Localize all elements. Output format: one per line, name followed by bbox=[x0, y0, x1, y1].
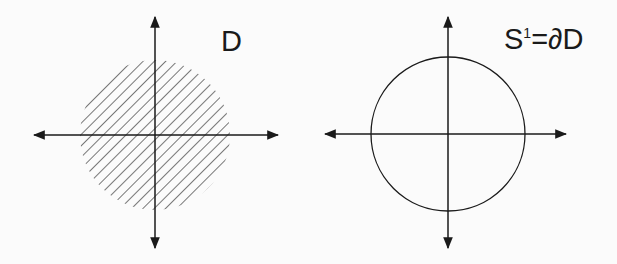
circle-label-superscript: 1 bbox=[523, 25, 531, 41]
circle-label-base: S bbox=[504, 23, 523, 55]
diagram-stage: D S1=∂D bbox=[0, 0, 617, 264]
circle-label: S1=∂D bbox=[504, 25, 583, 54]
circle-label-rest: =∂D bbox=[531, 23, 583, 55]
disk-label: D bbox=[221, 27, 242, 56]
